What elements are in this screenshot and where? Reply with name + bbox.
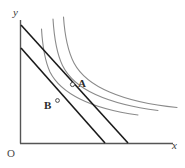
plot-canvas: [0, 0, 185, 168]
y-axis-label: y: [13, 7, 18, 18]
indifference-curves-group: [42, 17, 178, 115]
point-a-marker: [70, 82, 74, 86]
indifference-curve-2: [53, 19, 158, 111]
point-markers-group: [56, 82, 75, 102]
budget-line-inner: [21, 48, 105, 143]
indifference-curve-figure: y x O A B: [0, 0, 185, 168]
x-axis-label: x: [172, 140, 177, 151]
axes-group: [20, 20, 173, 144]
point-b-marker: [56, 99, 60, 103]
point-label-a: A: [78, 78, 86, 89]
point-label-b: B: [44, 100, 51, 111]
origin-label: O: [7, 148, 15, 159]
indifference-curve-3: [64, 17, 178, 108]
